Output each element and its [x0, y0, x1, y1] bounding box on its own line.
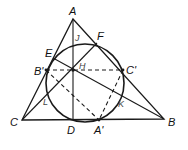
point-h: [71, 68, 75, 72]
label-b: B: [168, 116, 175, 128]
label-a-prime: A': [93, 124, 104, 136]
point-a-prime: [98, 119, 101, 122]
label-j: J: [74, 33, 80, 43]
altitude-b-e: [53, 58, 164, 119]
label-l: L: [43, 97, 48, 107]
label-h: H: [79, 61, 86, 71]
label-c-prime: C': [126, 64, 137, 76]
point-c-prime: [122, 69, 125, 72]
label-e: E: [45, 47, 53, 59]
point-b-prime: [45, 69, 48, 72]
label-c: C: [10, 116, 18, 128]
label-d: D: [67, 124, 75, 136]
label-f: F: [97, 30, 105, 42]
label-b-prime: B': [34, 65, 44, 77]
label-k: K: [118, 99, 125, 109]
label-a: A: [68, 5, 76, 17]
nine-point-circle-diagram: A B C D E F H J K L A' B' C': [0, 0, 188, 150]
